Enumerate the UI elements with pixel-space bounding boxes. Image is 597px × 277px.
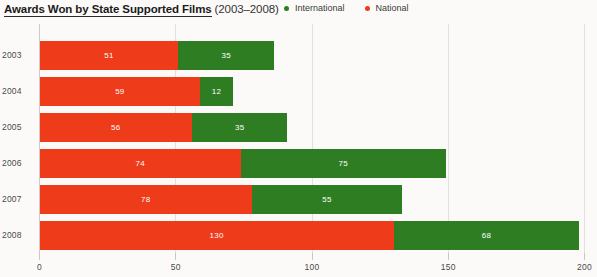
bar-segment-national-2007[interactable]: 78 xyxy=(40,185,253,214)
chart-header: Awards Won by State Supported Films(2003… xyxy=(0,0,597,24)
bar-value-national-2004: 59 xyxy=(40,77,201,106)
chart-plot-area: 2003513520045912200556352006747520077855… xyxy=(0,24,597,277)
bar-segment-national-2008[interactable]: 130 xyxy=(40,221,394,250)
bar-value-national-2005: 56 xyxy=(40,113,193,142)
y-axis-label-2008: 2008 xyxy=(2,221,36,250)
bar-value-international-2003: 35 xyxy=(178,41,273,70)
page-title-years: (2003–2008) xyxy=(212,3,279,15)
bar-segment-international-2006[interactable]: 75 xyxy=(241,149,445,178)
bar-segment-international-2007[interactable]: 55 xyxy=(252,185,402,214)
x-tick-50 xyxy=(175,253,176,260)
bar-segment-international-2003[interactable]: 35 xyxy=(178,41,273,70)
x-tick-200 xyxy=(584,253,585,260)
bar-row-2007: 20077855 xyxy=(0,185,597,214)
bar-segment-national-2003[interactable]: 51 xyxy=(40,41,179,70)
x-axis: 050100150200 xyxy=(0,253,597,277)
bar-row-2005: 20055635 xyxy=(0,113,597,142)
bar-value-national-2008: 130 xyxy=(40,221,394,250)
bar-segment-national-2004[interactable]: 59 xyxy=(40,77,201,106)
legend-label: International xyxy=(295,3,345,13)
y-axis-label-2004: 2004 xyxy=(2,77,36,106)
bar-value-international-2006: 75 xyxy=(241,149,445,178)
x-tick-label-0: 0 xyxy=(37,262,42,272)
bar-value-international-2007: 55 xyxy=(252,185,402,214)
chart-legend: InternationalNational xyxy=(284,3,409,13)
y-axis-label-2003: 2003 xyxy=(2,41,36,70)
bar-segment-national-2005[interactable]: 56 xyxy=(40,113,193,142)
legend-item-national: National xyxy=(365,3,409,13)
page-title-main: Awards Won by State Supported Films xyxy=(4,3,212,17)
page-title: Awards Won by State Supported Films(2003… xyxy=(4,3,279,15)
x-tick-label-150: 150 xyxy=(441,262,456,272)
bar-value-international-2004: 12 xyxy=(200,77,233,106)
legend-label: National xyxy=(376,3,409,13)
chart-screenshot: Awards Won by State Supported Films(2003… xyxy=(0,0,597,277)
bar-row-2003: 20035135 xyxy=(0,41,597,70)
bar-row-2006: 20067475 xyxy=(0,149,597,178)
bar-value-international-2008: 68 xyxy=(394,221,579,250)
bar-row-2008: 200813068 xyxy=(0,221,597,250)
x-tick-0 xyxy=(39,253,40,260)
legend-item-international: International xyxy=(284,3,345,13)
y-axis-label-2005: 2005 xyxy=(2,113,36,142)
legend-dot-green-icon xyxy=(284,6,289,11)
x-tick-label-200: 200 xyxy=(577,262,592,272)
x-tick-100 xyxy=(312,253,313,260)
bar-value-national-2006: 74 xyxy=(40,149,242,178)
y-axis-label-2006: 2006 xyxy=(2,149,36,178)
bar-segment-international-2005[interactable]: 35 xyxy=(192,113,287,142)
y-axis-label-2007: 2007 xyxy=(2,185,36,214)
bar-segment-national-2006[interactable]: 74 xyxy=(40,149,242,178)
x-tick-label-100: 100 xyxy=(305,262,320,272)
legend-dot-red-icon xyxy=(365,6,370,11)
bar-value-national-2007: 78 xyxy=(40,185,253,214)
x-tick-label-50: 50 xyxy=(171,262,181,272)
x-tick-150 xyxy=(448,253,449,260)
bar-value-national-2003: 51 xyxy=(40,41,179,70)
bar-row-2004: 20045912 xyxy=(0,77,597,106)
bar-segment-international-2008[interactable]: 68 xyxy=(394,221,579,250)
bar-value-international-2005: 35 xyxy=(192,113,287,142)
bar-segment-international-2004[interactable]: 12 xyxy=(200,77,233,106)
